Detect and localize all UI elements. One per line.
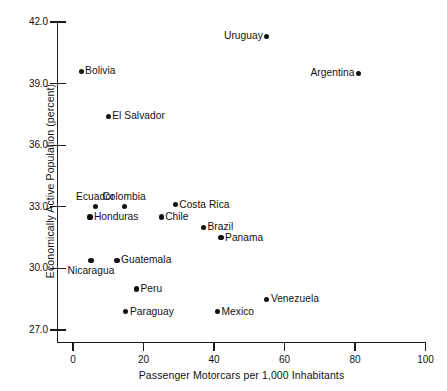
x-axis-tick-label: 20 [124,354,164,365]
data-point-label: Honduras [94,211,139,222]
x-axis-title: Passenger Motorcars per 1,000 Inhabitant… [57,369,426,381]
y-axis-tick-mark-inner [58,145,66,146]
x-axis-tick-mark [213,343,214,351]
x-axis-tick-label: 40 [194,354,234,365]
y-axis-tick-mark [50,329,58,330]
x-axis-tick-mark [143,343,144,351]
data-point-marker [218,235,223,240]
data-point-marker [87,214,92,219]
data-point-label: Venezuela [271,293,319,304]
x-axis-tick-label: 0 [53,354,93,365]
data-point-marker [106,114,111,119]
x-axis-tick-mark [72,343,73,351]
data-point-marker [159,214,164,219]
y-axis-tick-label: 42.0 [16,17,48,27]
y-axis-tick-mark-inner [58,83,66,84]
data-point-label: Panama [225,232,263,243]
data-point-label: Guatemala [121,254,171,265]
data-point-label: Peru [140,283,162,294]
data-point-marker [173,202,178,207]
data-point-label: Colombia [102,191,145,202]
x-axis-tick-label: 100 [406,354,446,365]
y-axis-line [57,22,58,343]
data-point-label: Costa Rica [179,199,229,210]
data-point-marker [264,34,269,39]
data-point-marker [264,297,269,302]
data-point-marker [134,286,139,291]
data-point-marker [123,309,128,314]
data-point-label: Mexico [222,306,255,317]
data-point-label: El Salvador [112,110,165,121]
y-axis-tick-label: 27.0 [16,325,48,335]
data-point-marker [114,258,119,263]
data-point-marker [356,71,361,76]
x-axis-tick-mark [354,343,355,351]
data-point-label: Paraguay [130,306,174,317]
data-point-marker [79,69,84,74]
y-axis-tick-mark-inner [58,21,66,22]
x-axis-tick-label: 60 [265,354,305,365]
y-axis-tick-mark-inner [58,206,66,207]
x-axis-tick-mark [425,343,426,351]
data-point-label: Chile [165,211,188,222]
data-point-label: Uruguay [224,30,263,41]
scatter-plot: 42.039.036.033.030.027.0 020406080100 Ur… [0,0,447,391]
data-point-label: Nicaragua [68,265,115,276]
y-axis-tick-mark [50,21,58,22]
y-axis-title: Economically Active Population (percent) [44,36,56,326]
x-axis-tick-label: 80 [335,354,375,365]
y-axis-tick-mark-inner [58,329,66,330]
data-point-label: Bolivia [85,65,115,76]
data-point-marker [122,204,127,209]
data-point-marker [93,204,98,209]
x-axis-tick-mark [284,343,285,351]
data-point-marker [88,258,93,263]
data-point-marker [215,309,220,314]
y-axis-tick-mark-inner [58,268,66,269]
x-axis-line [57,342,426,343]
data-point-marker [201,225,206,230]
data-point-label: Argentina [310,67,354,78]
